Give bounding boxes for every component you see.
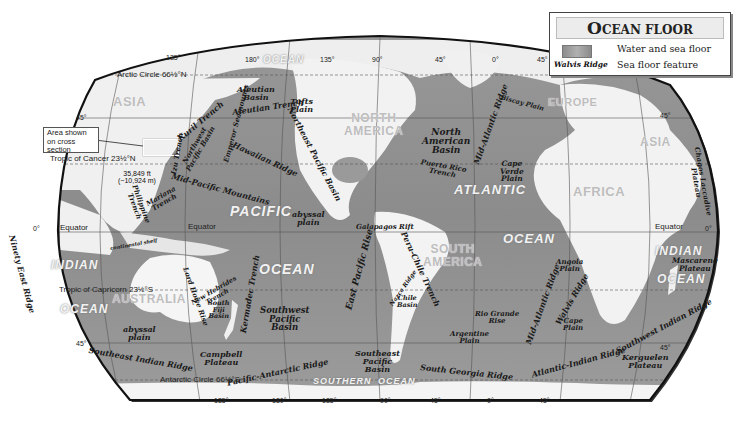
continent-australia: AUSTRALIA bbox=[112, 293, 186, 305]
feature-southwest-pacific-basin: SouthwestPacificBasin bbox=[260, 306, 310, 332]
deg-right-45s: 45° bbox=[660, 344, 671, 351]
continent-europe: EUROPE bbox=[548, 97, 597, 108]
feature-campbell-plateau: CampbellPlateau bbox=[200, 350, 242, 366]
deepest-point-marker: 35,849 ft (−10,924 m) bbox=[118, 170, 156, 184]
callout-text: Area shown on cross section bbox=[47, 128, 87, 154]
ocean-indian-east-ocean: OCEAN bbox=[657, 273, 705, 285]
continent-south-america: SOUTH AMERICA bbox=[423, 243, 483, 269]
ocean-southern-ocean: OCEAN bbox=[378, 377, 416, 386]
deg-bottom-45e: 45° bbox=[539, 397, 550, 404]
south-america-line2: AMERICA bbox=[423, 256, 483, 269]
feature-southeast-pacific-basin: SoutheastPacificBasin bbox=[355, 349, 400, 373]
deg-bottom-0: 0° bbox=[487, 397, 494, 404]
deg-right-45n: 45° bbox=[660, 112, 671, 119]
antarctica-land bbox=[60, 381, 720, 430]
feature-north-american-basin: NorthAmericanBasin bbox=[422, 128, 470, 155]
equator-label-mid: Equator bbox=[188, 223, 216, 231]
continent-asia-east: ASIA bbox=[640, 136, 671, 148]
deg-bottom-135: 135° bbox=[214, 397, 228, 404]
equator-label-right: Equator bbox=[655, 223, 683, 231]
ocean-atlantic: ATLANTIC bbox=[454, 183, 526, 196]
deg-left-45n: 45° bbox=[76, 114, 87, 121]
feature-chile-basin: ChileBasin bbox=[397, 295, 418, 308]
deg-bottom-90: 90° bbox=[380, 397, 391, 404]
continent-africa: AFRICA bbox=[573, 185, 625, 198]
cross-section-callout: Area shown on cross section bbox=[43, 127, 99, 153]
deg-top-135: 135° bbox=[320, 56, 334, 63]
ocean-pacific: PACIFIC bbox=[230, 204, 292, 218]
legend-feature-sample: Walvis Ridge bbox=[554, 60, 608, 69]
legend-title-initial: O bbox=[587, 18, 602, 38]
feature-rio-grande-rise: Rio GrandeRise bbox=[475, 310, 519, 324]
feature-cape-plain: CapePlain bbox=[563, 317, 583, 331]
continent-asia: ASIA bbox=[113, 95, 146, 108]
equator-label-left: Equator bbox=[60, 224, 88, 232]
feature-cape-verde-plain: CapeVerdePlain bbox=[500, 160, 524, 183]
feature-abyssal-plain-pacific: abyssalplain bbox=[292, 210, 325, 226]
legend: OCEAN FLOOR Water and sea floor Walvis R… bbox=[549, 12, 731, 76]
arctic-circle-label: Arctic Circle 66½°N bbox=[117, 71, 186, 79]
continent-north-america: NORTH AMERICA bbox=[344, 112, 404, 138]
deg-left-0: 0° bbox=[33, 225, 40, 232]
deg-top-180: 180° bbox=[245, 56, 259, 63]
legend-title-rest: CEAN FLOOR bbox=[602, 23, 693, 37]
deg-top-45: 45° bbox=[435, 56, 446, 63]
deg-top-0: 0° bbox=[492, 56, 499, 63]
ocean-southern: SOUTHERN bbox=[313, 377, 372, 386]
deg-right-0: 0° bbox=[705, 225, 712, 232]
ocean-indian-west: INDIAN bbox=[51, 259, 98, 271]
depth-feet: 35,849 ft bbox=[118, 170, 156, 177]
deg-left-45s: 45° bbox=[76, 340, 87, 347]
deg-top-45e: 45° bbox=[537, 56, 548, 63]
ocean-indian-west-ocean: OCEAN bbox=[60, 303, 108, 315]
feature-abyssal-plain-australia: abyssalplain bbox=[123, 325, 156, 341]
tropic-cancer-label: Tropic of Cancer 23½°N bbox=[50, 155, 136, 163]
deg-bottom-135w: 135° bbox=[322, 397, 336, 404]
feature-south-fiji-basin: SouthFijiBasin bbox=[208, 300, 229, 320]
legend-water-label: Water and sea floor bbox=[617, 43, 711, 54]
ocean-atlantic-ocean: OCEAN bbox=[503, 232, 555, 245]
legend-feature-label: Sea floor feature bbox=[617, 59, 698, 70]
legend-title: OCEAN FLOOR bbox=[556, 17, 724, 39]
feature-argentine-plain: ArgentinePlain bbox=[450, 330, 489, 344]
feature-kerguelen-plateau: KerguelenPlateau bbox=[622, 353, 669, 369]
ocean-pacific-ocean: OCEAN bbox=[259, 262, 315, 276]
feature-angola-plain: AngolaPlain bbox=[556, 258, 583, 272]
deg-bottom-45: 45° bbox=[430, 397, 441, 404]
feature-mascarene-plateau: MascarenePlateau bbox=[672, 257, 718, 272]
deg-top-135w: 135° bbox=[166, 54, 180, 61]
deg-bottom-180: 180° bbox=[272, 397, 286, 404]
deg-top-90: 90° bbox=[372, 56, 383, 63]
north-america-line2: AMERICA bbox=[344, 125, 404, 138]
ocean-arctic: OCEAN bbox=[263, 55, 304, 65]
water-sea-floor-swatch bbox=[562, 45, 592, 58]
